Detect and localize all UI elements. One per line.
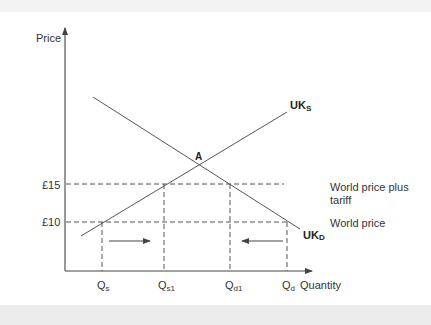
qty-tick-qd-sub: d [291, 284, 295, 293]
chart-frame: Price Quantity £15 £10 Qs Qs1 Qd1 Qd UKS… [0, 0, 431, 325]
price-tick-10: £10 [42, 216, 60, 228]
price-tick-15: £15 [42, 179, 60, 191]
tariff-diagram: Price Quantity £15 £10 Qs Qs1 Qd1 Qd UKS… [0, 0, 431, 325]
equilibrium-point-label: A [195, 151, 202, 162]
y-axis-label: Price [36, 32, 61, 44]
qty-tick-qd: Qd [282, 279, 295, 293]
tariff-label-line1: World price plus [330, 181, 409, 193]
supply-label-sub: S [306, 104, 312, 113]
demand-label-main: UK [303, 229, 319, 241]
demand-label-sub: D [319, 233, 325, 242]
qty-tick-qs-sub: s [106, 284, 110, 293]
tariff-label-line2: tariff [330, 194, 352, 206]
qty-tick-qd1-sub: d1 [234, 284, 243, 293]
supply-label: UKS [290, 99, 312, 113]
supply-curve [81, 112, 287, 236]
demand-curve [93, 97, 300, 229]
supply-label-main: UK [290, 99, 306, 111]
demand-label: UKD [303, 229, 325, 242]
qty-tick-qs1: Qs1 [158, 279, 176, 293]
x-axis-label: Quantity [300, 279, 341, 291]
qty-tick-qd1: Qd1 [225, 279, 243, 293]
qty-tick-qs1-sub: s1 [167, 284, 176, 293]
world-price-label: World price [330, 217, 385, 229]
qty-tick-qs: Qs [97, 279, 110, 293]
